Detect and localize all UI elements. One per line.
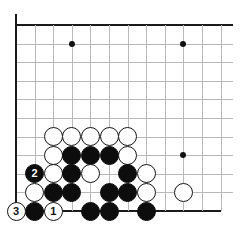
grid-line-vertical: [221, 25, 222, 211]
stone-white: [44, 146, 63, 165]
numbered-stone-white: 3: [7, 202, 26, 221]
grid-line-vertical: [90, 25, 91, 211]
grid-line-horizontal: [16, 99, 233, 100]
stone-white: [137, 164, 156, 183]
grid-line-vertical: [15, 14, 17, 211]
stone-white: [174, 183, 193, 202]
grid-line-horizontal: [16, 81, 233, 82]
grid-line-horizontal: [16, 62, 233, 63]
go-board: 231: [0, 0, 247, 240]
numbered-stone-black: 2: [25, 164, 44, 183]
grid-line-horizontal: [16, 44, 233, 45]
stone-black: [100, 202, 119, 221]
stone-black: [118, 183, 137, 202]
stone-white: [44, 164, 63, 183]
move-number-label: 3: [13, 206, 19, 217]
stone-black: [81, 202, 100, 221]
stone-black: [100, 146, 119, 165]
stone-black: [62, 164, 81, 183]
star-point: [180, 41, 186, 47]
stone-white: [62, 127, 81, 146]
star-point: [180, 152, 186, 158]
numbered-stone-white: 1: [44, 202, 63, 221]
move-number-label: 2: [32, 168, 38, 179]
stone-black: [100, 183, 119, 202]
stone-white: [100, 127, 119, 146]
stone-white: [81, 127, 100, 146]
grid-line-horizontal: [16, 118, 233, 119]
stone-black: [62, 146, 81, 165]
star-point: [69, 41, 75, 47]
stone-white: [118, 127, 137, 146]
grid-line-vertical: [202, 25, 203, 211]
stone-white: [81, 164, 100, 183]
stone-white: [118, 146, 137, 165]
stone-black: [25, 202, 44, 221]
stone-white: [44, 127, 63, 146]
stone-black: [62, 183, 81, 202]
stone-white: [25, 183, 44, 202]
stone-black: [118, 164, 137, 183]
stone-black: [137, 202, 156, 221]
stone-black: [81, 146, 100, 165]
move-number-label: 1: [50, 206, 56, 217]
grid-line-vertical: [165, 25, 166, 211]
stone-white: [137, 183, 156, 202]
stone-black: [44, 183, 63, 202]
grid-line-horizontal: [16, 24, 233, 26]
